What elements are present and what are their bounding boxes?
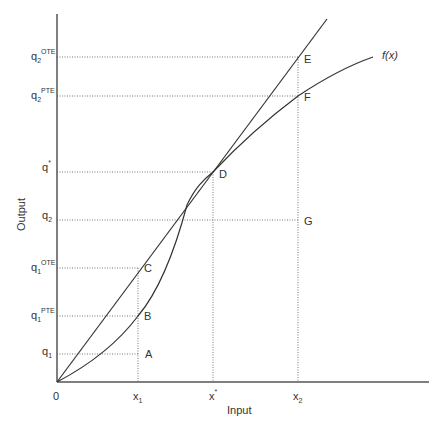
x-axis-title: Input [227, 405, 251, 416]
xtick-x2: x2 [293, 391, 302, 402]
diagram-canvas [0, 0, 439, 431]
point-label-f: F [304, 92, 311, 103]
axes [57, 14, 429, 382]
ytick-q2-ote: q2OTE [31, 51, 55, 62]
xtick-x1: x1 [133, 391, 142, 402]
crs-ray [57, 19, 327, 382]
ytick-q1-pte: q1PTE [31, 310, 55, 321]
ytick-q1-ote: q1OTE [31, 262, 55, 273]
xtick-origin: 0 [53, 391, 59, 402]
point-label-a: A [145, 349, 152, 360]
ytick-qstar: q* [42, 162, 51, 173]
ytick-q2-pte: q2PTE [31, 90, 55, 101]
point-label-g: G [304, 216, 313, 227]
point-label-e: E [304, 54, 311, 65]
curve-label-fx: f(x) [382, 50, 398, 61]
point-label-c: C [144, 263, 152, 274]
point-label-d: D [219, 169, 227, 180]
ytick-q1: q1 [42, 346, 52, 357]
xtick-xstar: x* [209, 391, 217, 402]
ytick-q2: q2 [42, 210, 52, 221]
y-axis-title: Output [16, 198, 27, 231]
point-label-b: B [144, 311, 151, 322]
